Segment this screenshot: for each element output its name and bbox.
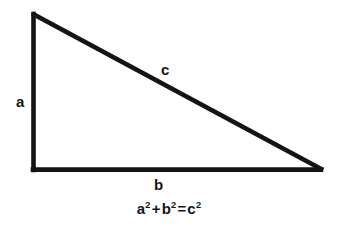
equation-term-a-base: a: [137, 200, 146, 217]
side-label-b: b: [154, 177, 163, 192]
side-label-c: c: [161, 62, 169, 77]
equation-operator-plus: +: [151, 200, 162, 217]
equation-term-a-exponent: 2: [145, 200, 150, 210]
triangle-side-c-line: [34, 15, 321, 170]
equation-operator-equals: =: [176, 200, 187, 217]
pythagorean-equation: a2+b2=c2: [0, 201, 338, 218]
equation-term-c-exponent: 2: [196, 200, 201, 210]
pythagorean-theorem-figure: a b c a2+b2=c2: [0, 0, 338, 230]
equation-term-b-base: b: [162, 200, 171, 217]
equation-term-c-base: c: [187, 200, 196, 217]
right-triangle-graphic: [0, 0, 338, 230]
side-label-a: a: [16, 94, 24, 109]
